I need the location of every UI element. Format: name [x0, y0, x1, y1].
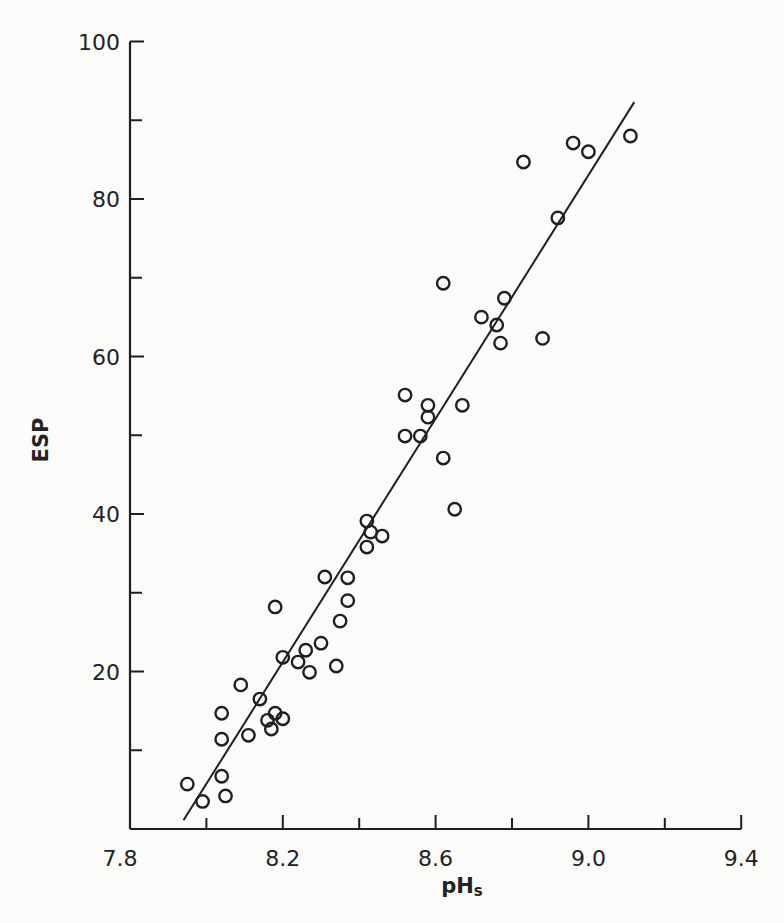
x-axis-label: pHs [441, 874, 483, 900]
y-tick-label: 20 [92, 660, 120, 685]
x-axis-label-subscript: s [474, 882, 483, 900]
data-point-marker [235, 679, 247, 691]
data-point-marker [342, 594, 354, 606]
data-point-marker [215, 770, 227, 782]
x-tick-label: 9.0 [571, 846, 606, 871]
tick-labels: 7.88.28.69.09.420406080100 [78, 30, 759, 872]
data-point-marker [422, 411, 434, 423]
data-point-marker [319, 571, 331, 583]
data-point-marker [536, 332, 548, 344]
scatter-chart: 7.88.28.69.09.420406080100 ESP pHs [0, 0, 784, 923]
data-point-marker [215, 707, 227, 719]
data-point-marker [498, 292, 510, 304]
data-point-marker [315, 637, 327, 649]
axis-ticks [130, 42, 741, 830]
data-point-marker [582, 146, 594, 158]
data-points [181, 130, 637, 808]
data-point-marker [437, 277, 449, 289]
data-point-marker [361, 541, 373, 553]
data-point-marker [334, 615, 346, 627]
data-point-marker [399, 430, 411, 442]
data-point-marker [456, 399, 468, 411]
x-tick-label: 8.6 [418, 846, 453, 871]
regression-line-path [183, 102, 634, 820]
data-point-marker [494, 337, 506, 349]
y-tick-label: 40 [92, 502, 120, 527]
data-point-marker [449, 503, 461, 515]
data-point-marker [300, 644, 312, 656]
data-point-marker [219, 790, 231, 802]
axes [130, 42, 741, 830]
data-point-marker [376, 530, 388, 542]
y-tick-label: 80 [92, 187, 120, 212]
data-point-marker [624, 130, 636, 142]
data-point-marker [215, 733, 227, 745]
data-point-marker [181, 778, 193, 790]
data-point-marker [475, 311, 487, 323]
data-point-marker [399, 389, 411, 401]
x-tick-label: 7.8 [103, 846, 138, 871]
x-tick-label: 8.2 [265, 846, 300, 871]
data-point-marker [292, 656, 304, 668]
regression-line [183, 102, 634, 820]
data-point-marker [342, 572, 354, 584]
data-point-marker [303, 666, 315, 678]
data-point-marker [422, 399, 434, 411]
x-tick-label: 9.4 [724, 846, 759, 871]
y-axis-label: ESP [29, 418, 53, 463]
y-tick-label: 100 [78, 30, 120, 55]
data-point-marker [517, 156, 529, 168]
data-point-marker [196, 795, 208, 807]
data-point-marker [567, 137, 579, 149]
data-point-marker [242, 729, 254, 741]
data-point-marker [269, 601, 281, 613]
data-point-marker [330, 660, 342, 672]
y-tick-label: 60 [92, 345, 120, 370]
data-point-marker [437, 452, 449, 464]
x-axis-label-main: pH [441, 874, 474, 898]
